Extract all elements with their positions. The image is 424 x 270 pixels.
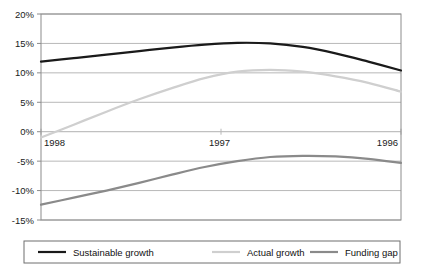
- x-axis-label-1997: 1997: [209, 137, 230, 148]
- y-axis-label-5: -5%: [17, 156, 34, 167]
- line-chart: 20%15%10%5%0%-5%-10%-15% 199819971996 Su…: [0, 0, 424, 270]
- legend-label-sustainable-growth: Sustainable growth: [73, 247, 154, 258]
- y-axis-label-4: 0%: [20, 126, 34, 137]
- x-axis-label-1998: 1998: [44, 137, 65, 148]
- x-axis-label-1996: 1996: [377, 137, 398, 148]
- chart-background: [0, 0, 424, 270]
- y-axis-label-2: 10%: [15, 67, 35, 78]
- y-axis-label-3: 5%: [20, 97, 34, 108]
- y-axis-label-7: -15%: [12, 215, 35, 226]
- legend-label-actual-growth: Actual growth: [247, 247, 305, 258]
- y-axis-label-0: 20%: [15, 9, 35, 20]
- y-axis-label-6: -10%: [12, 185, 35, 196]
- legend-label-funding-gap: Funding gap: [345, 247, 398, 258]
- chart-container: 20%15%10%5%0%-5%-10%-15% 199819971996 Su…: [0, 0, 424, 270]
- y-axis-label-1: 15%: [15, 38, 35, 49]
